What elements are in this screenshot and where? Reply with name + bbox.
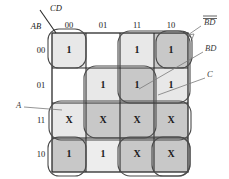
cell-r2c1: X xyxy=(99,114,107,125)
row-header-2: 11 xyxy=(37,115,45,125)
row-header-0: 00 xyxy=(37,45,46,55)
cell-r0c0: 1 xyxy=(67,44,72,55)
cell-r3c1: 1 xyxy=(101,148,106,159)
annotation-c-label: C xyxy=(207,69,213,79)
cell-r1c1: 1 xyxy=(101,79,106,90)
cell-r3c2: X xyxy=(133,148,141,159)
cell-r1c2: 1 xyxy=(135,79,140,90)
kmap-canvas: 1 1 1 1 1 1 X X X X 1 1 X X 00 01 11 10 … xyxy=(0,0,229,179)
corner-divider-slash xyxy=(40,10,56,33)
cell-r2c0: X xyxy=(65,114,73,125)
cell-r1c3: 1 xyxy=(169,79,174,90)
row-headers: 00 01 11 10 xyxy=(37,45,46,159)
corner-variable-block: CD AB xyxy=(30,3,63,33)
col-variable-label: CD xyxy=(50,3,63,13)
row-variable-label: AB xyxy=(30,21,41,31)
col-header-2: 11 xyxy=(133,20,141,30)
annotation-a-label: A xyxy=(15,100,22,110)
row-header-1: 01 xyxy=(37,80,46,90)
row-header-3: 10 xyxy=(37,149,46,159)
column-headers: 00 01 11 10 xyxy=(65,20,176,30)
col-header-0: 00 xyxy=(65,20,74,30)
cell-r3c0: 1 xyxy=(67,148,72,159)
annotation-bd-bar: BD xyxy=(188,16,217,39)
cell-r2c3: X xyxy=(167,114,175,125)
cell-r2c2: X xyxy=(133,114,141,125)
col-header-1: 01 xyxy=(99,20,108,30)
cell-r3c3: X xyxy=(167,148,175,159)
kmap-figure: 1 1 1 1 1 1 X X X X 1 1 X X 00 01 11 10 … xyxy=(0,0,229,179)
cell-r0c2: 1 xyxy=(135,44,140,55)
cell-r0c3: 1 xyxy=(169,44,174,55)
annotation-bd-label: BD xyxy=(205,43,217,53)
col-header-3: 10 xyxy=(167,20,176,30)
